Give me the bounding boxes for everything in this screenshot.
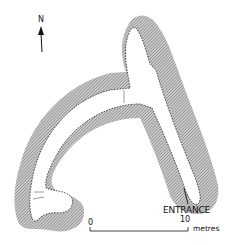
entrance-label: ENTRANCE [163,205,210,215]
scale-bar [90,227,188,231]
scale-unit-label: metres [193,224,219,233]
scale-start-label: 0 [88,218,93,227]
north-arrow-icon [38,26,44,52]
north-label: N [38,15,44,24]
scale-end-label: 10 [180,215,190,224]
